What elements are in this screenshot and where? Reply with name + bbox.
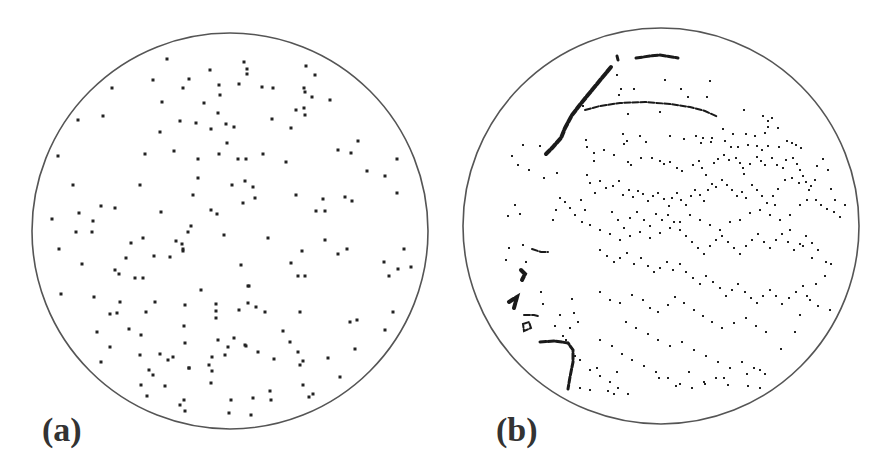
data-point: [562, 335, 564, 337]
data-point: [539, 145, 541, 147]
data-point: [211, 356, 214, 359]
data-point: [589, 369, 591, 371]
data-point: [195, 122, 198, 125]
data-point: [777, 188, 779, 190]
data-point: [627, 161, 629, 163]
data-point: [683, 138, 685, 140]
data-point: [146, 395, 149, 398]
data-point: [802, 175, 804, 177]
data-point: [669, 161, 671, 163]
data-point: [755, 325, 757, 327]
data-point: [742, 167, 744, 169]
data-point: [91, 231, 94, 234]
data-point: [705, 275, 707, 277]
data-point: [354, 348, 357, 351]
data-point: [745, 317, 747, 319]
data-point: [724, 140, 726, 142]
data-point: [582, 105, 584, 107]
data-point: [327, 357, 330, 360]
data-point: [764, 164, 766, 166]
data-point: [142, 237, 145, 240]
data-point: [698, 160, 700, 162]
data-point: [759, 369, 761, 371]
data-point: [617, 219, 619, 221]
data-point: [805, 181, 807, 183]
data-point: [772, 195, 774, 197]
data-point: [344, 196, 347, 199]
data-point: [781, 303, 783, 305]
data-point: [571, 298, 573, 300]
data-point: [782, 167, 784, 169]
data-point: [784, 179, 786, 181]
data-point: [691, 387, 693, 389]
data-point: [226, 142, 229, 145]
data-point: [114, 207, 117, 210]
data-point: [764, 373, 766, 375]
data-point: [721, 235, 723, 237]
data-point: [596, 367, 598, 369]
data-point: [767, 120, 769, 122]
data-point: [589, 224, 591, 226]
data-point: [791, 177, 793, 179]
streak: [546, 67, 611, 154]
data-point: [559, 197, 561, 199]
data-point: [667, 214, 669, 216]
data-point: [522, 244, 524, 246]
data-point: [693, 349, 695, 351]
data-point: [704, 383, 706, 385]
data-point: [700, 142, 702, 144]
data-point: [695, 135, 697, 137]
data-point: [511, 155, 513, 157]
data-point: [741, 361, 743, 363]
data-point: [396, 158, 399, 161]
data-point: [727, 241, 729, 243]
data-point: [599, 249, 601, 251]
data-point: [295, 194, 298, 197]
data-point: [616, 74, 618, 76]
data-point: [181, 243, 184, 246]
data-point: [540, 291, 542, 293]
data-point: [577, 321, 579, 323]
data-point: [769, 214, 771, 216]
data-point: [542, 303, 544, 305]
data-point: [125, 257, 128, 260]
data-point: [609, 233, 611, 235]
data-point: [800, 147, 802, 149]
data-point: [210, 209, 213, 212]
data-point: [805, 235, 807, 237]
data-point: [118, 273, 121, 276]
data-point: [586, 146, 588, 148]
data-point: [116, 312, 119, 315]
data-point: [679, 263, 681, 265]
data-point: [780, 348, 782, 350]
data-point: [722, 128, 724, 130]
data-point: [247, 302, 250, 305]
data-point: [732, 133, 734, 135]
data-point: [111, 87, 114, 90]
data-point: [607, 390, 609, 392]
data-point: [725, 295, 727, 297]
data-point: [730, 146, 732, 148]
data-point: [346, 248, 349, 251]
data-point: [744, 291, 746, 293]
data-point: [519, 213, 521, 215]
data-point: [609, 299, 611, 301]
data-point: [657, 311, 659, 313]
data-point: [815, 199, 817, 201]
data-point: [756, 156, 758, 158]
data-point: [100, 361, 103, 364]
data-point: [290, 127, 293, 130]
data-point: [252, 186, 255, 189]
data-point: [301, 250, 304, 253]
data-point: [754, 135, 756, 137]
data-point: [655, 213, 657, 215]
data-point: [676, 167, 678, 169]
data-point: [806, 199, 808, 201]
data-point: [584, 209, 586, 211]
data-point: [779, 219, 781, 221]
data-point: [750, 297, 752, 299]
data-point: [743, 109, 745, 111]
data-point: [254, 197, 257, 200]
data-point: [230, 399, 233, 402]
data-point: [569, 207, 571, 209]
